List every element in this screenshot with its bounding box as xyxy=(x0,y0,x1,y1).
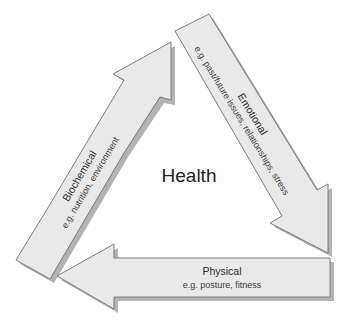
physical-title: Physical xyxy=(202,265,241,277)
physical-subtitle: e.g. posture, fitness xyxy=(183,280,262,290)
biochemical-arrow: Biochemical e.g. nutrition, environment xyxy=(16,42,175,283)
health-triangle-diagram: Biochemical e.g. nutrition, environment … xyxy=(0,0,340,322)
physical-arrow: Physical e.g. posture, fitness xyxy=(57,244,334,313)
health-label: Health xyxy=(162,165,217,186)
diagram-svg: Biochemical e.g. nutrition, environment … xyxy=(0,0,340,322)
emotional-arrow: Emotional e.g. past/future issues, relat… xyxy=(175,14,332,257)
